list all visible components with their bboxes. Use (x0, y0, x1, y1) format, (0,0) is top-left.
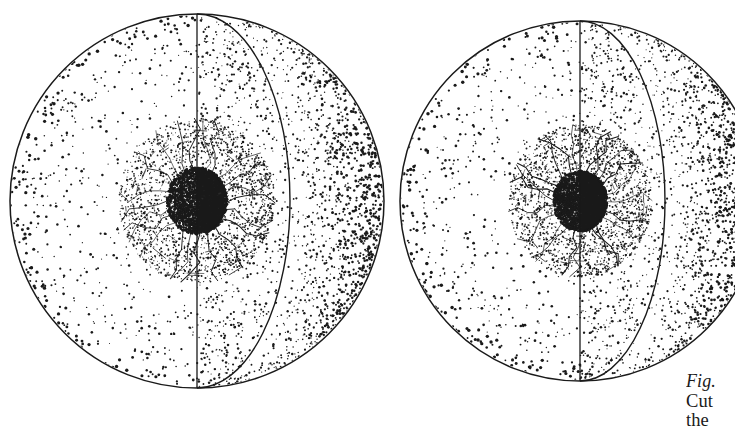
figure-caption: Fig. Cut the (686, 372, 735, 431)
caption-line-1: Cut (686, 392, 735, 412)
figure-root: Fig. Cut the (0, 0, 735, 436)
caption-line-fig: Fig. (686, 372, 735, 392)
caption-line-2: the (686, 411, 735, 431)
cutaway-spheres-diagram (0, 0, 735, 436)
